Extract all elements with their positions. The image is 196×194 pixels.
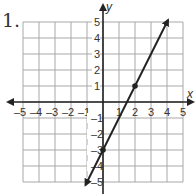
coordinate-plane: –5–4–3–2–11234554321–1–2–3–4–5 x y	[0, 0, 196, 194]
x-tick-label: 5	[180, 106, 186, 118]
x-tick-label: –4	[30, 106, 42, 118]
plotted-point	[132, 83, 138, 89]
x-tick-label: 3	[148, 106, 154, 118]
x-tick-label: –2	[62, 106, 74, 118]
y-tick-label: –1	[91, 112, 103, 124]
y-axis-label: y	[105, 0, 113, 14]
y-tick-label: 5	[94, 16, 100, 28]
y-tick-label: –2	[91, 128, 103, 140]
x-axis-label: x	[186, 87, 194, 101]
x-tick-label: –5	[14, 106, 26, 118]
y-tick-label: 4	[94, 32, 100, 44]
x-tick-label: 4	[164, 106, 170, 118]
plotted-point	[100, 147, 106, 153]
x-tick-label: 2	[132, 106, 138, 118]
y-tick-label: 3	[94, 48, 100, 60]
y-tick-label: –5	[91, 176, 103, 188]
y-tick-label: 1	[94, 80, 100, 92]
x-tick-label: –3	[46, 106, 58, 118]
y-tick-label: 2	[94, 64, 100, 76]
